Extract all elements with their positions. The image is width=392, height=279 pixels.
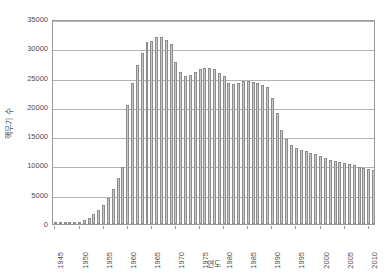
- bar: [64, 222, 67, 224]
- bar: [261, 85, 264, 224]
- bar: [194, 72, 197, 224]
- bar: [165, 40, 168, 225]
- bar: [285, 139, 288, 224]
- bar: [146, 42, 149, 224]
- bar: [92, 214, 95, 224]
- y-axis-tick-label: 25000: [27, 75, 48, 83]
- bar: [372, 170, 375, 224]
- x-axis-tick-mark: [54, 226, 55, 229]
- bar: [237, 83, 240, 224]
- x-axis-tick-mark: [223, 226, 224, 229]
- bar: [107, 198, 110, 224]
- bar: [121, 167, 124, 224]
- bar: [83, 220, 86, 224]
- y-axis-tick-label: 20000: [27, 104, 48, 112]
- bar: [223, 76, 226, 224]
- bar: [78, 222, 81, 224]
- bar: [112, 189, 115, 224]
- x-axis-tick-mark: [175, 226, 176, 229]
- bar: [276, 113, 279, 224]
- x-axis-tick-mark: [247, 226, 248, 229]
- bar: [174, 62, 177, 224]
- bar: [179, 72, 182, 224]
- bar: [102, 205, 105, 224]
- bar: [213, 69, 216, 224]
- bar: [136, 65, 139, 224]
- bar: [155, 37, 158, 224]
- x-axis-tick-mark: [199, 226, 200, 229]
- bar: [199, 69, 202, 224]
- bar: [126, 105, 129, 224]
- x-axis-tick-mark: [151, 226, 152, 229]
- bar: [97, 210, 100, 224]
- bar: [54, 222, 57, 224]
- bar: [150, 41, 153, 224]
- bars-layer: [53, 21, 374, 224]
- x-axis-tick-mark: [344, 226, 345, 229]
- bar: [324, 158, 327, 224]
- x-axis-tick-mark: [320, 226, 321, 229]
- bar: [160, 37, 163, 224]
- bar: [271, 98, 274, 224]
- y-axis-title-text: 핵무기 수: [3, 108, 14, 138]
- y-axis-tick-labels: 05000100001500020000250003000035000: [14, 20, 50, 225]
- bar: [362, 168, 365, 224]
- y-axis-tick-label: 15000: [27, 133, 48, 141]
- bar: [88, 218, 91, 224]
- x-axis-tick-mark: [295, 226, 296, 229]
- bar: [348, 164, 351, 224]
- x-axis-tick-mark: [79, 226, 80, 229]
- bar: [266, 87, 269, 224]
- bar: [141, 53, 144, 224]
- bar: [329, 160, 332, 224]
- x-axis-tick-mark: [271, 226, 272, 229]
- bar: [358, 167, 361, 224]
- bar: [189, 75, 192, 224]
- y-axis-tick-label: 10000: [27, 163, 48, 171]
- bar: [73, 222, 76, 224]
- bar: [353, 165, 356, 224]
- bar: [117, 178, 120, 224]
- bar: [338, 162, 341, 224]
- bar: [131, 83, 134, 224]
- bar: [367, 169, 370, 224]
- bar: [319, 156, 322, 224]
- x-axis-tick-labels: 1945195019551960196519701975198019851990…: [52, 226, 375, 256]
- bar: [252, 82, 255, 224]
- bar: [256, 83, 259, 224]
- bar: [242, 81, 245, 224]
- bar: [314, 154, 317, 224]
- y-axis-tick-label: 30000: [27, 46, 48, 54]
- bar: [305, 151, 308, 224]
- bar: [184, 76, 187, 224]
- bar: [280, 130, 283, 224]
- bar: [343, 163, 346, 224]
- x-axis-title: 연도: [52, 258, 375, 269]
- x-axis-tick-mark: [368, 226, 369, 229]
- bar: [218, 73, 221, 224]
- x-axis-tick-mark: [103, 226, 104, 229]
- bar: [295, 148, 298, 224]
- bar: [300, 150, 303, 224]
- bar: [170, 44, 173, 224]
- bar: [334, 161, 337, 224]
- plot-area: [52, 20, 375, 225]
- bar: [247, 81, 250, 225]
- nuclear-weapons-bar-chart: 핵무기 수 0500010000150002000025000300003500…: [0, 0, 392, 279]
- x-axis-tick-mark: [127, 226, 128, 229]
- bar: [203, 68, 206, 224]
- bar: [68, 222, 71, 224]
- bar: [59, 222, 62, 224]
- bar: [232, 84, 235, 224]
- bar: [309, 153, 312, 224]
- y-axis-tick-label: 35000: [27, 16, 48, 24]
- bar: [227, 83, 230, 224]
- y-axis-tick-label: 0: [44, 221, 48, 229]
- y-axis-tick-label: 5000: [31, 192, 48, 200]
- bar: [290, 145, 293, 224]
- bar: [208, 68, 211, 224]
